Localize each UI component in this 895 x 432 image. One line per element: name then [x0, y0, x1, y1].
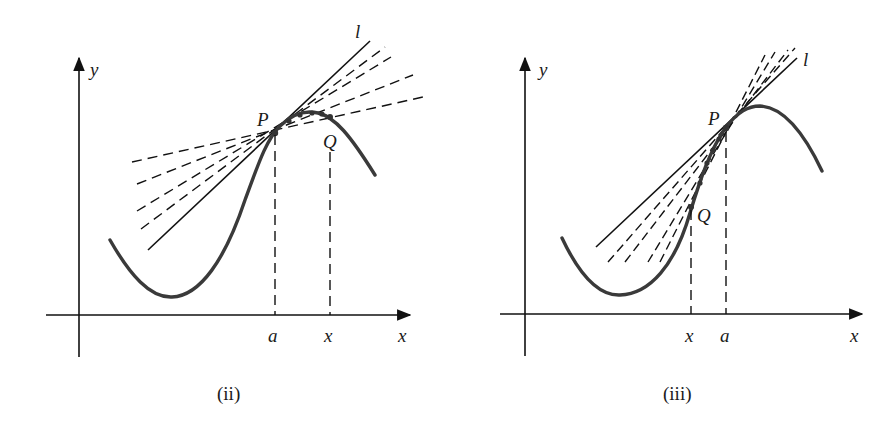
caption-iii: (iii) [663, 383, 692, 405]
secant-lines [608, 48, 795, 262]
tick-a-label: a [268, 325, 278, 346]
tick-x-label: x [323, 325, 333, 346]
x-axis-label: x [849, 325, 859, 346]
tangent-label-l: l [355, 21, 360, 42]
tick-a-label: a [720, 325, 730, 346]
caption-ii: (ii) [217, 383, 240, 405]
figure-canvas: y l P Q a x x (ii) [0, 0, 895, 432]
point-q-label: Q [697, 205, 711, 226]
x-axis-label: x [397, 325, 407, 346]
point-p-label: P [256, 109, 269, 130]
point-p-label: P [707, 108, 720, 129]
y-axis-label: y [537, 59, 548, 80]
secant-lines [132, 47, 423, 229]
tick-x-label: x [684, 325, 694, 346]
tangent-label-l: l [803, 49, 808, 70]
figure-ii: y l P Q a x x (ii) [46, 21, 423, 405]
point-q-label: Q [323, 131, 337, 152]
y-axis-label: y [88, 59, 99, 80]
curve [562, 106, 822, 295]
figure-iii: y l P Q x a x (iii) [500, 48, 862, 405]
